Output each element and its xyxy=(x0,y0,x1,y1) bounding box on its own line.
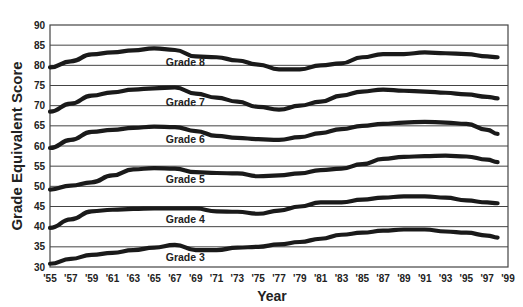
y-tick-label: 35 xyxy=(34,241,46,252)
x-tick-label: '73 xyxy=(231,273,245,284)
y-tick-label: 70 xyxy=(34,100,46,111)
y-axis-title: Grade Equivalent Score xyxy=(8,61,25,230)
series-line-grade-8 xyxy=(50,48,498,69)
x-tick-label: '59 xyxy=(85,273,99,284)
y-axis-ticks: 30354045505560657075808590 xyxy=(34,20,46,273)
x-tick-label: '75 xyxy=(251,273,265,284)
x-tick-label: '61 xyxy=(106,273,120,284)
series-label: Grade 5 xyxy=(166,173,205,185)
series-line-grade-5 xyxy=(50,156,498,190)
x-tick-label: '77 xyxy=(272,273,286,284)
x-tick-label: '55 xyxy=(43,273,57,284)
y-tick-label: 40 xyxy=(34,221,46,232)
x-tick-label: '89 xyxy=(397,273,411,284)
y-tick-label: 50 xyxy=(34,181,46,192)
x-tick-label: '63 xyxy=(127,273,141,284)
x-tick-label: '87 xyxy=(376,273,390,284)
y-tick-label: 65 xyxy=(34,120,46,131)
x-tick-label: '81 xyxy=(314,273,328,284)
series-line-grade-7 xyxy=(50,88,498,112)
x-tick-label: '57 xyxy=(64,273,78,284)
y-tick-label: 60 xyxy=(34,141,46,152)
x-tick-label: '93 xyxy=(439,273,453,284)
y-tick-label: 90 xyxy=(34,20,46,31)
x-tick-label: '95 xyxy=(460,273,474,284)
gridlines xyxy=(50,45,508,247)
x-tick-label: '71 xyxy=(210,273,224,284)
x-axis-ticks: '55'57'59'61'63'65'67'69'71'73'75'77'79'… xyxy=(43,273,515,284)
x-tick-label: '79 xyxy=(293,273,307,284)
x-tick-label: '97 xyxy=(480,273,494,284)
line-chart: 30354045505560657075808590 '55'57'59'61'… xyxy=(0,0,523,307)
series-line-grade-4 xyxy=(50,196,498,227)
x-tick-label: '85 xyxy=(356,273,370,284)
x-tick-label: '67 xyxy=(168,273,182,284)
series-label: Grade 7 xyxy=(166,96,205,108)
series-label: Grade 3 xyxy=(166,251,205,263)
y-tick-label: 80 xyxy=(34,60,46,71)
y-tick-label: 55 xyxy=(34,161,46,172)
series-label: Grade 8 xyxy=(166,56,205,68)
x-tick-label: '69 xyxy=(189,273,203,284)
y-tick-label: 75 xyxy=(34,80,46,91)
x-tick-label: '83 xyxy=(335,273,349,284)
y-tick-label: 45 xyxy=(34,201,46,212)
y-tick-label: 30 xyxy=(34,262,46,273)
series-label: Grade 4 xyxy=(166,213,205,225)
series-label: Grade 6 xyxy=(166,133,205,145)
x-tick-label: '65 xyxy=(147,273,161,284)
x-tick-label: '99 xyxy=(501,273,515,284)
series-lines xyxy=(50,48,498,263)
y-tick-label: 85 xyxy=(34,40,46,51)
x-tick-label: '91 xyxy=(418,273,432,284)
x-axis-title: Year xyxy=(257,288,287,304)
